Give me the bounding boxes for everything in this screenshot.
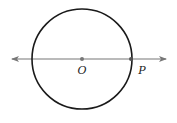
label-o: O: [77, 64, 86, 77]
point-o: [80, 57, 84, 61]
geometry-diagram: O P: [0, 0, 177, 123]
point-p: [129, 57, 133, 61]
label-p: P: [137, 64, 146, 77]
